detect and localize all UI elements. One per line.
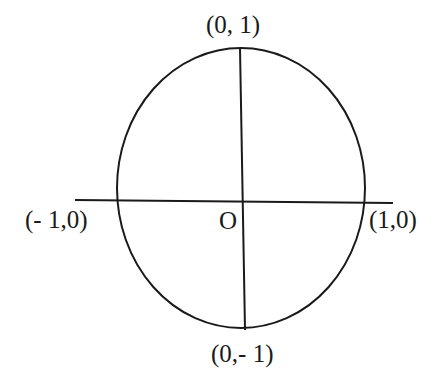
unit-circle-diagram [0,0,441,389]
label-top-point: (0, 1) [206,12,260,37]
label-bottom-point: (0,- 1) [211,341,273,366]
y-axis-line [240,48,245,330]
label-origin: O [219,208,237,233]
label-right-point: (1,0) [369,207,417,232]
x-axis-line [75,200,393,203]
label-left-point: (- 1,0) [25,207,87,232]
